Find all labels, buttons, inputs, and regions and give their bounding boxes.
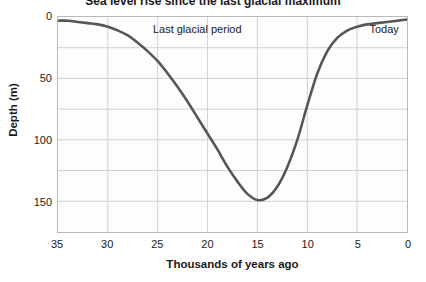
gridlines-horizontal xyxy=(58,48,407,202)
x-tick-label: 5 xyxy=(343,239,373,250)
sea-level-chart: Sea level rise since the last glacial ma… xyxy=(0,0,426,282)
x-tick-label: 15 xyxy=(243,239,273,250)
x-axis-title: Thousands of years ago xyxy=(57,258,408,270)
y-tick-label: 0 xyxy=(12,11,52,22)
y-axis-title: Depth (m) xyxy=(7,70,19,150)
chart-title: Sea level rise since the last glacial ma… xyxy=(0,0,426,8)
chart-plot-svg xyxy=(58,17,407,232)
x-tick-label: 10 xyxy=(293,239,323,250)
sea-level-curve xyxy=(58,19,407,200)
x-tick-label: 30 xyxy=(92,239,122,250)
chart-annotation-label: Last glacial period xyxy=(153,24,242,35)
x-tick-label: 25 xyxy=(142,239,172,250)
y-tick-label: 150 xyxy=(12,197,52,208)
chart-annotation-label: Today xyxy=(369,24,398,35)
x-tick-label: 35 xyxy=(42,239,72,250)
plot-area xyxy=(57,16,408,233)
x-tick-label: 0 xyxy=(393,239,423,250)
x-tick-label: 20 xyxy=(192,239,222,250)
